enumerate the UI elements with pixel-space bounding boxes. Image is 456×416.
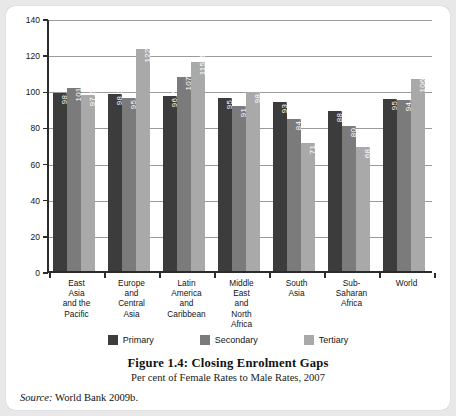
bar-group: 96.7107.3115.6 xyxy=(159,20,214,271)
bar-value-label: 80.3 xyxy=(349,121,358,137)
y-axis-tick-label: 120 xyxy=(12,51,40,61)
bar-group: 88.880.368.5 xyxy=(324,20,379,271)
x-axis-category-line: Saharan xyxy=(324,288,379,298)
x-axis-category-label: Sub-SaharanAfrica xyxy=(324,278,379,309)
x-axis-category-label: World xyxy=(379,278,434,288)
x-axis-category-line: and xyxy=(159,298,214,308)
bar-value-label: 98.8 xyxy=(253,87,262,103)
bar: 98.1 xyxy=(108,94,122,271)
x-axis-category-line: Pacific xyxy=(49,309,104,319)
y-axis-tick-label: 40 xyxy=(12,196,40,206)
x-axis-category-line: East xyxy=(214,288,269,298)
legend-label: Tertiary xyxy=(319,335,349,345)
legend-item: Secondary xyxy=(200,335,258,345)
x-axis-tick-mark xyxy=(379,273,381,278)
x-axis-tick-mark xyxy=(104,273,106,278)
x-axis-category-line: Asia xyxy=(104,309,159,319)
source-note: Source: World Bank 2009b. xyxy=(20,392,138,403)
x-axis-tick-mark xyxy=(159,273,161,278)
legend-item: Tertiary xyxy=(304,335,349,345)
bar: 80.3 xyxy=(342,126,356,271)
bar: 84.0 xyxy=(287,119,301,271)
x-axis-category-line: Sub- xyxy=(324,278,379,288)
y-axis-tick-label: 60 xyxy=(12,160,40,170)
bar-value-label: 106.1 xyxy=(418,72,427,93)
bar: 98.6 xyxy=(53,93,67,271)
y-axis-tick-label: 100 xyxy=(12,87,40,97)
x-axis-category-line: Africa xyxy=(214,319,269,329)
x-axis-category-label: EastAsiaand thePacific xyxy=(49,278,104,319)
x-axis-category-line: East xyxy=(49,278,104,288)
bar: 95.1 xyxy=(383,99,397,271)
x-axis-tick-mark xyxy=(269,273,271,278)
x-axis-category-line: Asia xyxy=(269,288,324,298)
bar-group: 98.6101.097.5 xyxy=(49,20,104,271)
y-axis-tick-label: 80 xyxy=(12,123,40,133)
x-axis-tick-mark xyxy=(49,273,51,278)
x-axis-category-line: and xyxy=(214,298,269,308)
x-axis-category-line: South xyxy=(269,278,324,288)
bar-chart: 020406080100120140 98.6101.097.598.195.7… xyxy=(6,6,450,410)
bar-value-label: 68.5 xyxy=(363,142,372,158)
figure-card: 020406080100120140 98.6101.097.598.195.7… xyxy=(6,6,450,410)
bar-value-label: 84.0 xyxy=(294,114,303,130)
bar: 95.8 xyxy=(218,98,232,271)
x-axis-category-label: LatinAmericaandCaribbean xyxy=(159,278,214,319)
x-axis-category-label: MiddleEastandNorthAfrica xyxy=(214,278,269,329)
y-axis-tick-label: 0 xyxy=(12,268,40,278)
x-axis-category-line: Caribbean xyxy=(159,309,214,319)
x-axis-category-line: Middle xyxy=(214,278,269,288)
bar: 88.8 xyxy=(328,111,342,271)
x-axis-tick-mark xyxy=(324,273,326,278)
bar-value-label: 115.6 xyxy=(198,55,207,75)
x-axis-category-line: World xyxy=(379,278,434,288)
bar-value-label: 71.1 xyxy=(308,137,317,153)
bar: 122.7 xyxy=(136,49,150,271)
legend-label: Primary xyxy=(123,335,154,345)
bar-groups: 98.6101.097.598.195.7122.796.7107.3115.6… xyxy=(49,20,432,271)
bar-group: 95.891.598.8 xyxy=(214,20,269,271)
bar: 93.6 xyxy=(273,102,287,271)
x-axis-category-line: Latin xyxy=(159,278,214,288)
chart-legend: PrimarySecondaryTertiary xyxy=(6,335,450,345)
x-axis-category-line: Central xyxy=(104,298,159,308)
bar: 68.5 xyxy=(356,147,370,271)
x-axis-category-line: Asia xyxy=(49,288,104,298)
bar: 107.3 xyxy=(177,77,191,271)
bar-group: 93.684.071.1 xyxy=(269,20,324,271)
legend-swatch-icon xyxy=(200,335,210,345)
x-axis-category-line: North xyxy=(214,309,269,319)
bar: 98.8 xyxy=(246,92,260,271)
x-axis-category-line: Europe xyxy=(104,278,159,288)
legend-item: Primary xyxy=(108,335,154,345)
bar-value-label: 122.7 xyxy=(143,42,152,63)
figure-title: Figure 1.4: Closing Enrolment Gaps xyxy=(6,356,450,371)
x-axis-tick-mark xyxy=(214,273,216,278)
bar: 115.6 xyxy=(191,62,205,271)
bar-value-label: 93.6 xyxy=(280,97,289,113)
bar: 97.5 xyxy=(81,95,95,271)
x-axis-category-line: America xyxy=(159,288,214,298)
bar-value-label: 88.8 xyxy=(335,105,344,121)
legend-label: Secondary xyxy=(215,335,258,345)
bar: 95.7 xyxy=(122,98,136,271)
bar: 94.9 xyxy=(397,100,411,271)
bar: 91.5 xyxy=(232,106,246,271)
x-axis-category-label: EuropeandCentralAsia xyxy=(104,278,159,319)
figure-subtitle: Per cent of Female Rates to Male Rates, … xyxy=(6,372,450,383)
legend-swatch-icon xyxy=(108,335,118,345)
bar: 96.7 xyxy=(163,96,177,271)
bar-group: 95.194.9106.1 xyxy=(379,20,434,271)
x-axis-category-line: Africa xyxy=(324,298,379,308)
bar: 71.1 xyxy=(301,143,315,271)
x-axis-category-label: SouthAsia xyxy=(269,278,324,298)
y-axis-tick-label: 20 xyxy=(12,232,40,242)
legend-swatch-icon xyxy=(304,335,314,345)
bar-group: 98.195.7122.7 xyxy=(104,20,159,271)
bar: 101.0 xyxy=(67,88,81,271)
bar: 106.1 xyxy=(411,79,425,271)
y-axis-tick-label: 140 xyxy=(12,15,40,25)
source-label: Source: xyxy=(20,392,53,403)
bar-value-label: 97.5 xyxy=(88,90,97,106)
x-axis-tick-mark xyxy=(434,273,436,278)
